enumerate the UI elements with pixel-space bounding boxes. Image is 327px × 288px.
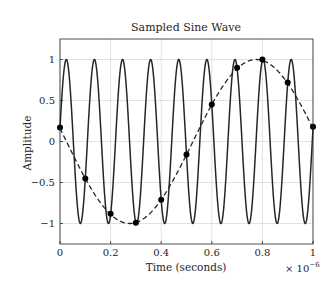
sample-point (285, 79, 291, 85)
y-tick-label: 0 (49, 136, 55, 147)
sample-point (209, 102, 215, 108)
chart-svg: 00.20.40.60.8110.50−0.5−1 Sampled Sine W… (0, 0, 327, 288)
sample-point (108, 211, 114, 217)
x-tick-label: 0 (57, 247, 63, 258)
x-multiplier: × 10−6 (285, 261, 320, 274)
y-tick-label: −0.5 (31, 177, 55, 188)
chart-title: Sampled Sine Wave (131, 21, 241, 34)
sample-point (184, 152, 190, 158)
y-tick-label: −1 (40, 218, 55, 229)
x-tick-label: 0.2 (103, 247, 119, 258)
y-tick-label: 0.5 (39, 95, 55, 106)
sample-point (259, 57, 265, 63)
x-tick-label: 0.6 (204, 247, 220, 258)
plot-series (57, 57, 316, 226)
sample-point (158, 197, 164, 203)
x-tick-label: 0.8 (254, 247, 270, 258)
sample-point (234, 65, 240, 71)
sample-point (82, 175, 88, 181)
x-tick-label: 0.4 (153, 247, 169, 258)
x-axis-label: Time (seconds) (146, 261, 227, 273)
y-axis-label: Amplitude (21, 116, 33, 172)
y-tick-label: 1 (49, 54, 55, 65)
sample-point (133, 220, 139, 226)
x-tick-label: 1 (310, 247, 316, 258)
